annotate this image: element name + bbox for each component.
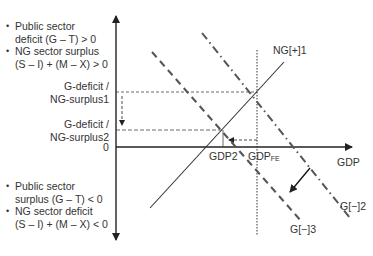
note-text: NG sector deficit	[15, 205, 108, 218]
g2-curve-label: G[−]2	[340, 200, 366, 213]
ng-curve-label: NG[+]1	[273, 44, 307, 57]
origin-label: 0	[103, 141, 109, 154]
upper-left-notes: Public sector deficit (G – T) > 0 NG sec…	[6, 20, 108, 70]
g3-curve-label: G[−]3	[290, 223, 316, 236]
curve-shift-arrow	[290, 168, 310, 192]
note-text: Public sector	[15, 20, 108, 33]
note-text: deficit (G – T) > 0	[15, 33, 108, 46]
g3-curve	[152, 52, 302, 222]
note-ng-deficit: NG sector deficit (S – I) + (M – X) < 0	[6, 205, 108, 230]
gdp-fe-sub: FE	[271, 155, 280, 162]
level1-line1: G-deficit /	[50, 80, 109, 93]
note-text: surplus (G – T) < 0	[15, 193, 108, 206]
level2-line1: G-deficit /	[50, 118, 109, 131]
level2-line2: NG-surplus2	[50, 131, 109, 144]
lower-left-notes: Public sector surplus (G – T) < 0 NG sec…	[6, 180, 108, 230]
g2-curve	[202, 33, 350, 218]
ng-curve	[150, 62, 284, 208]
note-ng-surplus: NG sector surplus (S – I) + (M – X) > 0	[6, 45, 108, 70]
level1-label: G-deficit / NG-surplus1	[50, 80, 109, 105]
note-public-surplus: Public sector surplus (G – T) < 0	[6, 180, 108, 205]
note-text: Public sector	[15, 180, 108, 193]
gdp-fe-label: GDPFE	[248, 150, 280, 166]
note-text: NG sector surplus	[15, 45, 108, 58]
note-text: (S – I) + (M – X) < 0	[15, 218, 108, 231]
note-text: (S – I) + (M – X) > 0	[15, 58, 108, 71]
gdp-fe-main: GDP	[248, 150, 271, 162]
note-public-deficit: Public sector deficit (G – T) > 0	[6, 20, 108, 45]
level1-line2: NG-surplus1	[50, 93, 109, 106]
gdp2-label: GDP2	[209, 150, 238, 163]
level2-label: G-deficit / NG-surplus2	[50, 118, 109, 143]
x-axis-label: GDP	[337, 156, 360, 169]
